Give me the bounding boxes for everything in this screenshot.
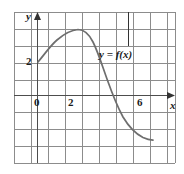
x-tick-label-6: 6 <box>137 97 143 108</box>
y-axis-label: y <box>26 11 31 22</box>
x-axis-label: x <box>170 100 176 111</box>
graph-canvas <box>0 0 184 174</box>
y-tick-label-2: 2 <box>26 56 32 67</box>
x-axis-arrowhead <box>167 92 175 99</box>
function-label: y = f(x) <box>99 49 132 60</box>
x-tick-label-2: 2 <box>68 97 74 108</box>
graph-figure: y x 2 0 2 6 y = f(x) <box>0 0 184 174</box>
y-axis-arrowhead <box>34 12 41 20</box>
origin-label: 0 <box>34 97 40 108</box>
y-axis <box>34 12 41 163</box>
